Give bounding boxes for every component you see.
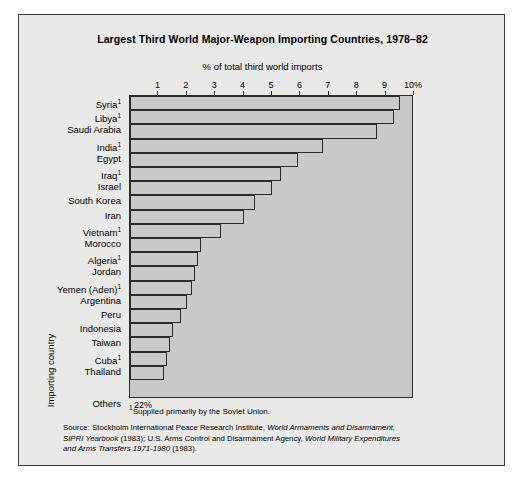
footnote-marker: 1 <box>117 354 121 361</box>
x-axis-tick-label: 5 <box>268 80 273 90</box>
chart-row <box>130 181 412 195</box>
bar-thailand <box>130 366 164 380</box>
category-label-indonesia: Indonesia <box>80 322 121 336</box>
category-label-morocco: Morocco <box>85 237 121 251</box>
category-label-iraq: Iraq1 <box>101 166 121 180</box>
footnote: 1Supplied primarily by the Soviet Union. <box>129 404 270 416</box>
category-label-peru: Peru <box>101 308 121 322</box>
x-axis-tick-label: 8 <box>354 80 359 90</box>
chart-row <box>130 110 412 124</box>
footnote-marker: 1 <box>117 283 121 290</box>
chart-title: Largest Third World Major-Weapon Importi… <box>19 33 506 45</box>
bar-yemen-aden <box>130 281 192 295</box>
bar-saudi-arabia <box>130 124 377 138</box>
chart-row <box>130 252 412 266</box>
chart-row <box>130 337 412 351</box>
chart-row <box>130 224 412 238</box>
bar-iraq <box>130 167 281 181</box>
chart-row <box>130 238 412 252</box>
x-axis-tick-label: 2 <box>183 80 188 90</box>
bar-india <box>130 139 323 153</box>
footnote-marker: 1 <box>117 141 121 148</box>
chart-row <box>130 309 412 323</box>
source-italic: World Military Expenditures <box>305 434 400 443</box>
bar-jordan <box>130 266 195 280</box>
bar-vietnam <box>130 224 221 238</box>
bar-iran <box>130 210 244 224</box>
chart-row <box>130 210 412 224</box>
category-label-yemen-aden: Yemen (Aden)1 <box>57 280 121 294</box>
category-label-saudi-arabia: Saudi Arabia <box>67 123 121 137</box>
bar-syria <box>130 96 400 110</box>
category-label-jordan: Jordan <box>92 265 121 279</box>
chart-row <box>130 153 412 167</box>
footnote-marker: 1 <box>129 404 133 411</box>
bar-egypt <box>130 153 298 167</box>
source-italic: and Arms Transfers 1971-1980 <box>63 444 170 453</box>
bar-cuba <box>130 352 167 366</box>
chart-row <box>130 295 412 309</box>
source-italic: World Armaments and Disarmament, <box>267 423 395 432</box>
category-label-argentina: Argentina <box>80 294 121 308</box>
chart-row <box>130 139 412 153</box>
category-label-iran: Iran <box>105 209 121 223</box>
category-label-syria: Syria1 <box>96 95 121 109</box>
category-label-egypt: Egypt <box>97 152 121 166</box>
bar-peru <box>130 309 181 323</box>
category-label-india: India1 <box>97 138 121 152</box>
chart-figure: Largest Third World Major-Weapon Importi… <box>18 14 505 466</box>
x-axis-tick-label: 4 <box>240 80 245 90</box>
x-axis-tick <box>413 91 414 95</box>
source-italic: SIPRI Yearbook <box>63 434 118 443</box>
bar-algeria <box>130 252 198 266</box>
x-axis-tick-label: 6 <box>297 80 302 90</box>
bar-argentina <box>130 295 187 309</box>
footnote-marker: 1 <box>117 254 121 261</box>
bar-taiwan <box>130 337 170 351</box>
y-axis-label-wrap: Importing country <box>33 165 53 325</box>
chart-row <box>130 167 412 181</box>
x-axis-tick-label: 1 <box>155 80 160 90</box>
category-label-south-korea: South Korea <box>68 194 121 208</box>
chart-row <box>130 352 412 366</box>
chart-row <box>130 266 412 280</box>
chart-row <box>130 195 412 209</box>
footnote-marker: 1 <box>117 226 121 233</box>
bar-libya <box>130 110 394 124</box>
bar-israel <box>130 181 272 195</box>
footnote-marker: 1 <box>117 98 121 105</box>
chart-row <box>130 124 412 138</box>
x-axis-tick-label: 10% <box>404 80 422 90</box>
chart-subtitle: % of total third world imports <box>19 61 506 72</box>
category-label-algeria: Algeria1 <box>88 251 121 265</box>
footnote-marker: 1 <box>117 112 121 119</box>
chart-row <box>130 281 412 295</box>
bar-morocco <box>130 238 201 252</box>
chart-row <box>130 366 412 380</box>
x-axis-tick-label: 9 <box>382 80 387 90</box>
chart-row <box>130 323 412 337</box>
category-label-vietnam: Vietnam1 <box>83 223 121 237</box>
x-axis-tick-label: 3 <box>212 80 217 90</box>
category-label-cuba: Cuba1 <box>95 351 121 365</box>
category-label-others: Others <box>92 397 121 411</box>
category-label-taiwan: Taiwan <box>91 336 121 350</box>
bar-indonesia <box>130 323 173 337</box>
category-label-libya: Libya1 <box>95 109 121 123</box>
bars-container: 22% <box>130 96 412 397</box>
y-axis-label: Importing country <box>45 296 56 446</box>
footnote-marker: 1 <box>117 169 121 176</box>
category-label-thailand: Thailand <box>85 365 121 379</box>
x-axis: 12345678910% <box>129 77 413 95</box>
bar-south-korea <box>130 195 255 209</box>
category-label-israel: Israel <box>98 180 121 194</box>
plot-area: 22% <box>129 95 413 398</box>
chart-row <box>130 96 412 110</box>
x-axis-tick-label: 7 <box>325 80 330 90</box>
source-note: Source: Stockholm International Peace Re… <box>63 423 483 455</box>
